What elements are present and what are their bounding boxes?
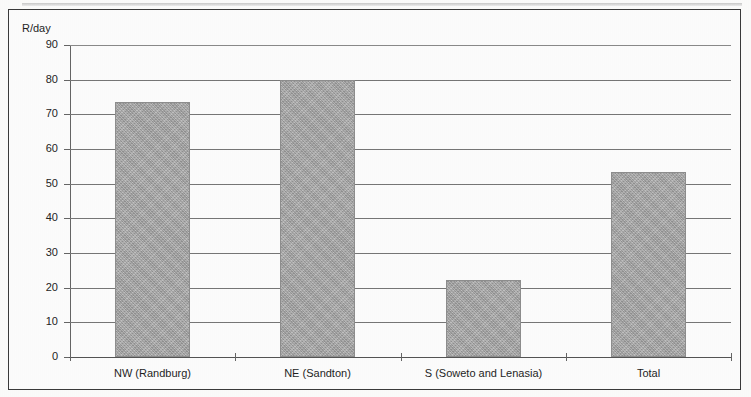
y-axis-tick-label: 50 — [22, 178, 58, 189]
x-axis-tick-mark — [235, 353, 236, 361]
y-axis-tick-label: 90 — [22, 39, 58, 50]
y-axis-tick-label: 30 — [22, 247, 58, 258]
y-axis-tick-label: 40 — [22, 212, 58, 223]
y-axis-tick-label: 80 — [22, 74, 58, 85]
y-axis-tick-label: 70 — [22, 108, 58, 119]
x-axis-category-label: NW (Randburg) — [70, 367, 235, 379]
y-axis-title: R/day — [22, 22, 51, 34]
x-axis-category-label: NE (Sandton) — [235, 367, 400, 379]
gridline — [70, 45, 731, 46]
scanned-page: R/day 9080706050403020100 NW (Randburg)N… — [0, 0, 751, 397]
scan-edge-artifact — [22, 3, 742, 6]
y-axis-tick-label: 10 — [22, 316, 58, 327]
x-axis-tick-mark — [70, 353, 71, 361]
x-axis-tick-mark — [401, 353, 402, 361]
bar-1 — [115, 102, 190, 357]
x-axis-category-label: S (Soweto and Lenasia) — [401, 367, 566, 379]
y-axis-tick-label: 0 — [22, 351, 58, 362]
bar-3 — [446, 280, 521, 357]
x-axis-category-label: Total — [566, 367, 731, 379]
gridline — [70, 80, 731, 81]
plot-area — [70, 45, 731, 357]
y-axis-tick-label: 20 — [22, 282, 58, 293]
y-axis-tick-label: 60 — [22, 143, 58, 154]
bar-2 — [280, 80, 355, 357]
x-axis-tick-mark — [731, 353, 732, 361]
bar-4 — [611, 172, 686, 357]
x-axis-tick-mark — [566, 353, 567, 361]
